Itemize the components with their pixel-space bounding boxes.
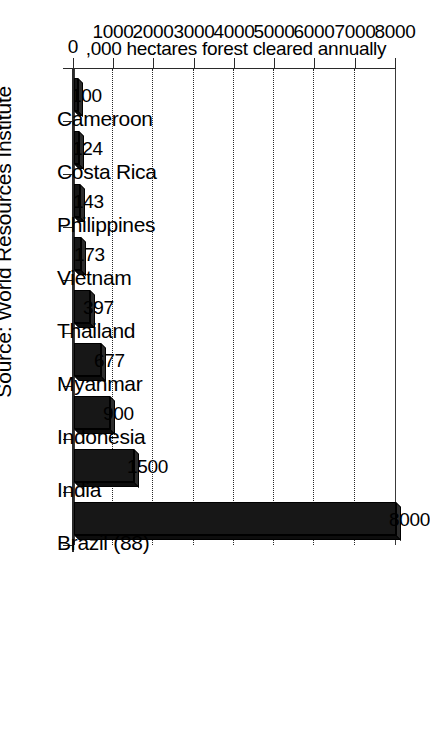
category-label: Vietnam [57,267,132,288]
bar-value-label: 124 [72,139,103,158]
bar-value-label: 900 [103,404,134,423]
category-label: Myanmar [57,373,142,394]
bar-value-label: 100 [71,86,102,105]
value-axis-line [74,68,396,69]
category-label: Brazil (88) [57,532,149,553]
bar-value-label: 1500 [127,457,168,476]
category-label: Cameroon [57,108,153,129]
category-label: India [57,479,101,500]
category-label: Thailand [57,320,135,341]
bar-value-label: 8000 [389,510,430,529]
category-label: Indonesia [57,426,145,447]
bar-value-label: 397 [83,298,114,317]
value-axis-title: ,000 hectares forest cleared annually [75,38,397,60]
category-label: Costa Rica [57,161,157,182]
category-label: Philippines [57,214,155,235]
bars-layer: 10012414317339767790015008000 [74,68,396,545]
bar-value-label: 677 [94,351,125,370]
bar-value-label: 173 [74,245,105,264]
bar-value-label: 143 [73,192,104,211]
value-tick: 0 [73,58,74,68]
source-note: Source: World Resources Institute [0,86,16,398]
category-tick [63,68,74,69]
